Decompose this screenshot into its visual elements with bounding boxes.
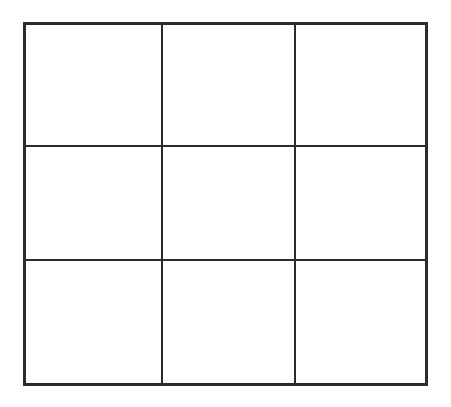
cell-r2c1[interactable] — [23, 145, 161, 259]
cell-r1c2[interactable] — [161, 22, 294, 145]
cell-r1c1[interactable] — [23, 22, 161, 145]
cell-r2c2[interactable] — [161, 145, 294, 259]
cell-r2c3[interactable] — [294, 145, 428, 259]
canvas — [0, 0, 451, 407]
grid-figure — [23, 22, 428, 386]
cell-r3c3[interactable] — [294, 259, 428, 386]
cell-r1c3[interactable] — [294, 22, 428, 145]
cell-r3c2[interactable] — [161, 259, 294, 386]
cell-r3c1[interactable] — [23, 259, 161, 386]
grid-cells — [23, 22, 428, 386]
